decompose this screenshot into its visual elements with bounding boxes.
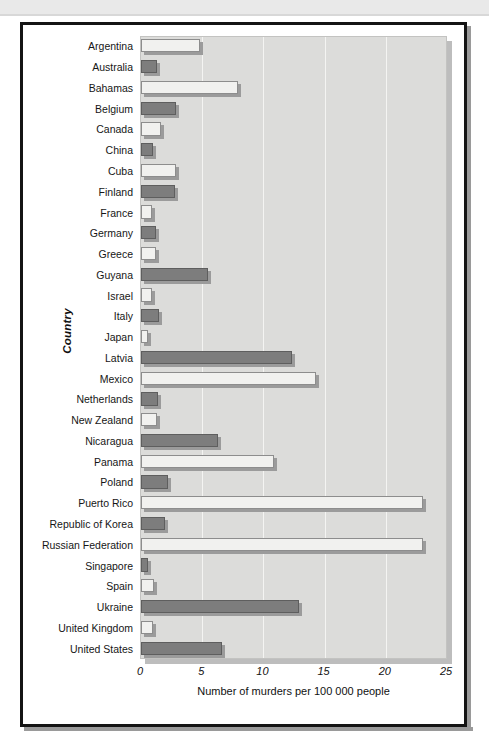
bar-latvia[interactable]: [141, 351, 295, 367]
bar-body: [141, 330, 148, 343]
bar-finland[interactable]: [141, 185, 178, 201]
bar-row: [141, 556, 446, 577]
bar-row: [141, 390, 446, 411]
bar-body: [141, 413, 157, 426]
bar-row: [141, 162, 446, 183]
category-label: Ukraine: [97, 602, 133, 613]
bar-row: [141, 182, 446, 203]
bar-body: [141, 288, 152, 301]
category-label: Australia: [92, 62, 133, 73]
x-axis-tick-labels: 0510152025: [140, 665, 447, 681]
bar-row: [141, 203, 446, 224]
bar-body: [141, 558, 148, 571]
category-label: Republic of Korea: [50, 519, 133, 530]
bar-poland[interactable]: [141, 475, 171, 491]
bar-australia[interactable]: [141, 60, 160, 76]
bar-republic-of-korea[interactable]: [141, 517, 168, 533]
category-label: Finland: [99, 187, 133, 198]
bar-belgium[interactable]: [141, 102, 179, 118]
bar-body: [141, 226, 156, 239]
category-label: Italy: [114, 311, 133, 322]
category-label: Israel: [107, 291, 133, 302]
bar-spain[interactable]: [141, 579, 157, 595]
bar-body: [141, 102, 176, 115]
bar-row: [141, 369, 446, 390]
bar-row: [141, 515, 446, 536]
chart-page: Country ArgentinaAustraliaBahamasBelgium…: [0, 0, 489, 749]
category-label: Singapore: [85, 561, 133, 572]
bar-russian-federation[interactable]: [141, 538, 426, 554]
x-tick-20: 20: [379, 665, 391, 677]
category-label: France: [100, 208, 133, 219]
category-label: Guyana: [96, 270, 133, 281]
bar-series: [141, 37, 446, 658]
bar-nicaragua[interactable]: [141, 434, 221, 450]
bar-body: [141, 475, 168, 488]
bar-row: [141, 618, 446, 639]
bar-body: [141, 122, 161, 135]
bar-body: [141, 185, 175, 198]
bar-body: [141, 143, 153, 156]
bar-mexico[interactable]: [141, 372, 319, 388]
category-label: Puerto Rico: [78, 498, 133, 509]
bar-cuba[interactable]: [141, 164, 179, 180]
bar-united-kingdom[interactable]: [141, 621, 156, 637]
bar-singapore[interactable]: [141, 558, 151, 574]
bar-body: [141, 268, 208, 281]
category-label: Argentina: [88, 41, 133, 52]
bar-body: [141, 517, 165, 530]
plot-area-wrapper: [140, 36, 447, 659]
bar-body: [141, 496, 423, 509]
bar-puerto-rico[interactable]: [141, 496, 426, 512]
category-label: Spain: [106, 581, 133, 592]
category-label: Bahamas: [89, 83, 133, 94]
bar-row: [141, 577, 446, 598]
bar-body: [141, 39, 200, 52]
bar-body: [141, 164, 176, 177]
bar-row: [141, 307, 446, 328]
bar-body: [141, 455, 274, 468]
category-label: Nicaragua: [85, 436, 133, 447]
bar-body: [141, 372, 316, 385]
bar-france[interactable]: [141, 205, 155, 221]
bar-row: [141, 245, 446, 266]
category-label: United Kingdom: [58, 623, 133, 634]
page-top-strip: [0, 0, 489, 14]
bar-japan[interactable]: [141, 330, 151, 346]
bar-row: [141, 432, 446, 453]
bar-row: [141, 598, 446, 619]
x-axis-title: Number of murders per 100 000 people: [140, 685, 447, 697]
page-top-divider: [0, 14, 489, 16]
bar-greece[interactable]: [141, 247, 159, 263]
category-label: China: [106, 145, 133, 156]
bar-row: [141, 265, 446, 286]
bar-netherlands[interactable]: [141, 392, 161, 408]
x-tick-25: 25: [440, 665, 452, 677]
bar-panama[interactable]: [141, 455, 277, 471]
bar-body: [141, 81, 238, 94]
bar-argentina[interactable]: [141, 39, 203, 55]
bar-china[interactable]: [141, 143, 156, 159]
bar-body: [141, 205, 152, 218]
bar-canada[interactable]: [141, 122, 164, 138]
x-tick-15: 15: [317, 665, 329, 677]
category-label: Belgium: [95, 104, 133, 115]
plot-area: [140, 36, 447, 659]
bar-guyana[interactable]: [141, 268, 211, 284]
category-label: Germany: [90, 228, 133, 239]
bar-body: [141, 579, 154, 592]
bar-ukraine[interactable]: [141, 600, 302, 616]
bar-row: [141, 79, 446, 100]
bar-italy[interactable]: [141, 309, 162, 325]
bar-row: [141, 328, 446, 349]
bar-body: [141, 309, 159, 322]
bar-row: [141, 639, 446, 659]
bar-united-states[interactable]: [141, 642, 225, 658]
bar-bahamas[interactable]: [141, 81, 241, 97]
bar-germany[interactable]: [141, 226, 159, 242]
bar-body: [141, 351, 292, 364]
bar-israel[interactable]: [141, 288, 155, 304]
bar-new-zealand[interactable]: [141, 413, 160, 429]
category-label: Panama: [94, 457, 133, 468]
bar-body: [141, 600, 299, 613]
